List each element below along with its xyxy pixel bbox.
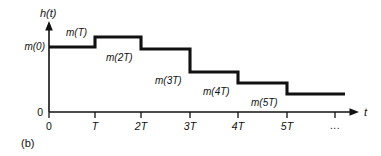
staircase-plot: h(t) t 0 m(0) 0 T 2T 3T 4T 5T ... m(T) m… — [0, 0, 381, 156]
x-axis-title: t — [364, 106, 368, 118]
sample-label-m3T: m(3T) — [155, 75, 182, 86]
x-tick-label-5: 5T — [281, 120, 295, 132]
x-axis-ticks — [49, 112, 335, 118]
x-tick-label-4: 4T — [232, 120, 246, 132]
y-axis-zero-label: 0 — [37, 106, 43, 118]
x-tick-label-1: T — [92, 120, 100, 132]
sample-label-mT: m(T) — [66, 27, 87, 38]
staircase-waveform — [49, 37, 345, 94]
y-axis — [45, 21, 53, 112]
sample-label-m0: m(0) — [24, 41, 45, 52]
x-tick-label-3: 3T — [184, 120, 198, 132]
x-axis-arrowhead-icon — [350, 108, 360, 116]
x-tick-label-ellipsis: ... — [330, 120, 340, 131]
y-axis-title: h(t) — [40, 7, 57, 19]
x-tick-label-0: 0 — [46, 120, 52, 132]
sample-label-m2T: m(2T) — [106, 52, 133, 63]
figure-panel-b: h(t) t 0 m(0) 0 T 2T 3T 4T 5T ... m(T) m… — [0, 0, 381, 156]
sample-label-m4T: m(4T) — [203, 86, 230, 97]
y-axis-arrowhead-icon — [45, 21, 53, 31]
panel-caption: (b) — [21, 138, 34, 149]
sample-label-m5T: m(5T) — [251, 97, 278, 108]
x-tick-label-2: 2T — [134, 120, 149, 132]
